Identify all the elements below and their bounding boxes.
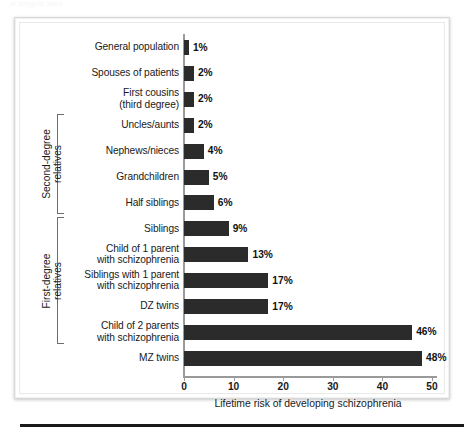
bar	[184, 66, 194, 81]
category-label: MZ twins	[81, 352, 179, 364]
x-tick-label: 10	[214, 381, 254, 392]
bar	[184, 170, 209, 185]
bar-value-label: 17%	[272, 301, 292, 313]
bar	[184, 40, 189, 55]
category-label: Nephews/nieces	[81, 145, 179, 157]
bar	[184, 247, 248, 262]
x-tick-label: 0	[164, 381, 204, 392]
page-bleed-artifact: of dizygotic twins	[10, 0, 460, 8]
page-bottom-rule	[20, 424, 464, 427]
bar	[184, 195, 214, 210]
bar-chart-plot-area: General population1%Spouses of patients2…	[15, 18, 451, 400]
bar-value-label: 48%	[426, 352, 446, 364]
x-axis-line	[183, 376, 437, 378]
bar-value-label: 2%	[198, 93, 213, 105]
bar	[184, 351, 422, 366]
bar	[184, 92, 194, 107]
x-axis-title: Lifetime risk of developing schizophreni…	[74, 398, 469, 409]
bar-value-label: 6%	[218, 197, 233, 209]
category-label: Uncles/aunts	[81, 119, 179, 131]
bar-value-label: 46%	[416, 326, 436, 338]
category-label: Siblings	[81, 223, 179, 235]
bar-value-label: 2%	[198, 67, 213, 79]
category-label: Child of 1 parent with schizophrenia	[81, 243, 179, 266]
category-label: Half siblings	[81, 197, 179, 209]
bar-value-label: 2%	[198, 119, 213, 131]
group-label: First-degree relatives	[41, 217, 65, 344]
bar-value-label: 9%	[233, 223, 248, 235]
bar-value-label: 4%	[208, 145, 223, 157]
bar-value-label: 1%	[193, 42, 208, 54]
bar	[184, 325, 412, 340]
category-label: Siblings with 1 parent with schizophreni…	[81, 269, 179, 292]
bar-value-label: 13%	[252, 249, 272, 261]
x-tick-label: 40	[362, 381, 402, 392]
bar	[184, 118, 194, 133]
x-tick-label: 20	[263, 381, 303, 392]
category-label: Child of 2 parents with schizophrenia	[81, 320, 179, 343]
bar	[184, 299, 268, 314]
x-tick-label: 50	[412, 381, 452, 392]
category-label: Grandchildren	[81, 171, 179, 183]
bar-value-label: 17%	[272, 275, 292, 287]
x-tick-label: 30	[313, 381, 353, 392]
category-label: DZ twins	[81, 300, 179, 312]
category-label: Spouses of patients	[81, 67, 179, 79]
bar	[184, 273, 268, 288]
bar	[184, 144, 204, 159]
bar	[184, 221, 229, 236]
figure-frame: General population1%Spouses of patients2…	[14, 17, 450, 399]
category-label: First cousins (third degree)	[81, 87, 179, 110]
category-label: General population	[81, 41, 179, 53]
group-label: Second-degree relatives	[41, 114, 65, 215]
bar-value-label: 5%	[213, 171, 228, 183]
